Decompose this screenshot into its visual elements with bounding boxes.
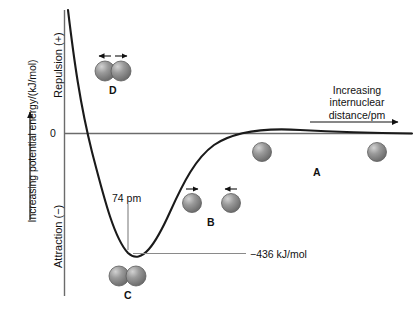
y-axis-attraction-label: Attraction (−): [52, 205, 64, 268]
y-axis-zero-tick-label: 0: [50, 127, 56, 139]
y-axis-title: Increasing potential energy/(kJ/mol): [26, 31, 38, 251]
molecule-b: [183, 189, 241, 213]
x-axis-title: Increasing internuclear distance/pm: [305, 84, 409, 121]
atom-sphere: [126, 266, 146, 286]
molecule-label-d: D: [109, 84, 117, 96]
y-axis-repulsion-label: Repulsion (+): [52, 32, 64, 98]
x-axis-title-line2: internuclear: [305, 96, 409, 108]
x-axis-title-line1: Increasing: [305, 84, 409, 96]
atom-sphere: [253, 143, 272, 162]
bond-energy-annotation: −436 kJ/mol: [250, 248, 307, 260]
atom-sphere: [183, 194, 202, 213]
molecule-label-c: C: [124, 289, 132, 301]
atom-sphere: [222, 194, 241, 213]
x-axis-title-line3: distance/pm: [305, 109, 409, 121]
molecule-d: [95, 56, 131, 81]
atom-sphere: [368, 143, 387, 162]
bond-length-annotation: 74 pm: [112, 192, 141, 204]
molecule-label-a: A: [313, 166, 321, 178]
molecule-c: [109, 266, 146, 286]
molecule-label-b: B: [207, 216, 215, 228]
molecule-a: [253, 143, 387, 162]
figure-canvas: Increasing potential energy/(kJ/mol) Rep…: [0, 0, 415, 309]
atom-sphere: [111, 61, 131, 81]
